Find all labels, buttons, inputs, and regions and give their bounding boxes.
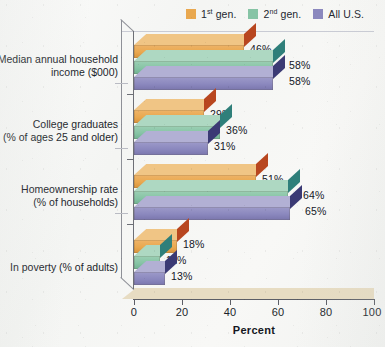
x-tick-label-40: 40 [224, 306, 237, 318]
bar-top-face [134, 50, 285, 61]
bar-median-income-all-us[interactable] [134, 77, 273, 90]
bar-homeownership-all-us[interactable] [134, 207, 290, 220]
x-tick-20 [182, 299, 183, 305]
bar-top-face [134, 34, 256, 45]
x-tick-label-80: 80 [320, 306, 333, 318]
value-label-in-poverty-all-us: 13% [171, 270, 192, 282]
value-label-median-income-second-gen: 58% [289, 59, 310, 71]
bar-top-face [134, 180, 300, 191]
value-label-in-poverty-first-gen: 18% [183, 238, 204, 250]
category-label-line-1: Homeownership rate [0, 183, 118, 196]
x-tick-100 [374, 299, 375, 305]
x-tick-60 [278, 299, 279, 305]
bar-outline [134, 207, 290, 220]
x-axis-line [133, 299, 374, 300]
bar-top-face [134, 66, 285, 77]
value-label-homeownership-all-us: 65% [305, 205, 326, 217]
x-tick-80 [326, 299, 327, 305]
value-label-median-income-all-us: 58% [289, 75, 310, 87]
bar-outline [134, 272, 165, 285]
group-separator-tick-back-2 [115, 148, 128, 149]
group-separator-tick-back-1 [115, 83, 128, 84]
value-label-homeownership-second-gen: 64% [303, 189, 324, 201]
bar-top-face [134, 196, 302, 207]
group-separator-tick-3 [127, 224, 134, 225]
x-tick-40 [230, 299, 231, 305]
x-axis-title: Percent [134, 324, 374, 336]
category-label-in-poverty: In poverty (% of adults) [0, 261, 118, 274]
category-label-median-income: Median annual household income ($000) [0, 53, 118, 78]
chart-plot-area: Median annual household income ($000) 46… [0, 0, 385, 347]
category-label-line-1: Median annual household [0, 53, 118, 66]
x-tick-0 [134, 299, 135, 305]
bar-outline [134, 77, 273, 90]
category-label-line-2: income ($000) [0, 66, 118, 79]
group-separator-tick-back-3 [115, 213, 128, 214]
category-label-line-2: (% of ages 25 and older) [0, 131, 118, 144]
category-label-line-1: College graduates [0, 118, 118, 131]
x-tick-label-60: 60 [272, 306, 285, 318]
bar-outline [134, 142, 208, 155]
bar-in-poverty-all-us[interactable] [134, 272, 165, 285]
category-label-college-graduates: College graduates (% of ages 25 and olde… [0, 118, 118, 143]
category-label-line-1: In poverty (% of adults) [0, 261, 118, 274]
value-label-college-graduates-second-gen: 36% [226, 124, 247, 136]
group-separator-tick-2 [127, 159, 134, 160]
x-tick-label-100: 100 [363, 306, 382, 318]
y-axis-back-line [121, 20, 122, 278]
bar-college-graduates-all-us[interactable] [134, 142, 208, 155]
x-tick-label-20: 20 [176, 306, 189, 318]
x-tick-label-0: 0 [131, 306, 137, 318]
category-label-line-2: (% of households) [0, 196, 118, 209]
group-separator-tick-1 [127, 94, 134, 95]
category-label-homeownership: Homeownership rate (% of households) [0, 183, 118, 208]
bar-top-face [134, 164, 268, 175]
value-label-college-graduates-all-us: 31% [214, 140, 235, 152]
chart-floor [134, 288, 374, 299]
